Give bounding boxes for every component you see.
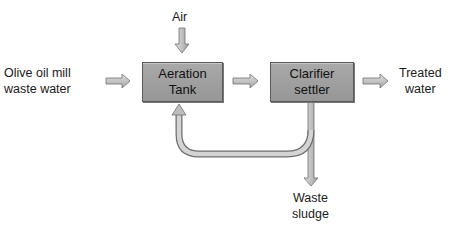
output-label: Treated water xyxy=(399,65,442,97)
aeration-tank-line1: Aeration xyxy=(158,66,206,82)
waste-label-line1: Waste xyxy=(292,190,329,206)
input-label-line2: waste water xyxy=(4,81,71,97)
aeration-tank-line2: Tank xyxy=(169,82,196,98)
outlet-arrow xyxy=(363,74,388,88)
waste-label: Waste sludge xyxy=(292,190,329,222)
input-label-line1: Olive oil mill xyxy=(4,65,71,81)
waste-label-line2: sludge xyxy=(292,206,329,222)
clarifier-box: Clarifier settler xyxy=(270,62,354,102)
clarifier-line1: Clarifier xyxy=(290,66,335,82)
air-arrow xyxy=(175,28,189,53)
inlet-arrow xyxy=(106,74,130,88)
flow-arrows xyxy=(0,0,463,229)
transfer-arrow xyxy=(233,74,258,88)
recycle-arrow xyxy=(172,104,311,154)
output-label-line1: Treated xyxy=(399,65,442,81)
clarifier-line2: settler xyxy=(294,82,329,98)
aeration-tank-box: Aeration Tank xyxy=(142,62,223,102)
air-label: Air xyxy=(172,9,187,25)
output-label-line2: water xyxy=(399,81,442,97)
input-label: Olive oil mill waste water xyxy=(4,65,71,97)
